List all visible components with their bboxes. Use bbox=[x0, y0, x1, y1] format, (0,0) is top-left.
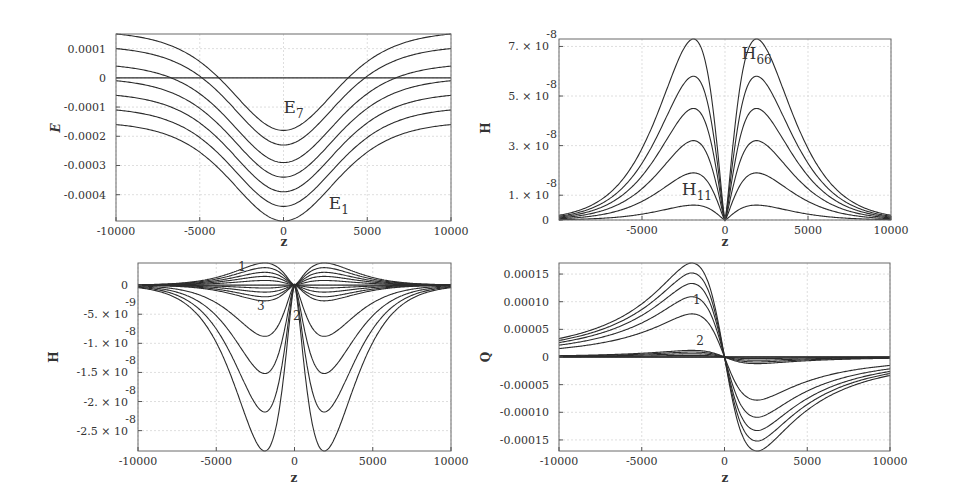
y-axis-label: E bbox=[49, 123, 63, 134]
x-axis-label: z bbox=[722, 471, 729, 485]
grid bbox=[116, 34, 451, 221]
curve-label: 2 bbox=[293, 309, 301, 323]
y-axis-label: H bbox=[479, 122, 493, 133]
y-tick-label: -2. × 10 bbox=[84, 396, 128, 409]
y-tick-label: -0.00005 bbox=[500, 379, 549, 392]
curve-label: E7 bbox=[284, 97, 304, 121]
x-ticks: -10000-50000500010000 bbox=[119, 447, 469, 468]
x-tick-label: -10000 bbox=[97, 225, 136, 238]
y-tick-label: -1. × 10 bbox=[84, 337, 128, 350]
x-tick-label: -10000 bbox=[119, 455, 158, 468]
curve-label: 2 bbox=[696, 334, 704, 348]
y-tick-label: -0.0002 bbox=[64, 130, 106, 143]
y-tick-exponent: -8 bbox=[125, 325, 136, 338]
x-tick-label: 0 bbox=[291, 455, 298, 468]
y-tick-exponent: -9 bbox=[125, 296, 136, 309]
x-tick-label: 5000 bbox=[793, 455, 821, 468]
y-tick-label: 0.00015 bbox=[504, 268, 550, 281]
x-tick-label: 10000 bbox=[434, 455, 469, 468]
y-ticks: 0-5. × 10-9-1. × 10-8-1.5 × 10-8-2. × 10… bbox=[77, 279, 142, 438]
x-tick-label: 5000 bbox=[359, 455, 387, 468]
panel-h-diagonal: -50000500010000 7. × 10-85. × 10-83. × 1… bbox=[479, 28, 909, 249]
annotations: H66H11 bbox=[682, 43, 772, 203]
y-tick-label: -0.00015 bbox=[500, 434, 549, 447]
y-tick-label: 5. × 10 bbox=[508, 90, 549, 103]
y-tick-exponent: -8 bbox=[125, 354, 136, 367]
x-ticks: -10000-50000500010000 bbox=[540, 447, 908, 468]
x-tick-label: -5000 bbox=[626, 455, 658, 468]
curve-label: 1 bbox=[238, 260, 246, 274]
figure: -10000-50000500010000 0.00010-0.0001-0.0… bbox=[0, 0, 954, 500]
y-tick-label: 0 bbox=[99, 72, 106, 85]
grid bbox=[559, 39, 891, 220]
curve-group1 bbox=[138, 263, 451, 285]
x-tick-label: 5000 bbox=[794, 224, 822, 237]
y-tick-label: 0 bbox=[542, 351, 549, 364]
y-tick-exponent: -8 bbox=[546, 177, 557, 190]
x-tick-label: 10000 bbox=[873, 455, 908, 468]
x-tick-label: -5000 bbox=[184, 225, 216, 238]
y-tick-exponent: -8 bbox=[546, 28, 557, 41]
y-tick-exponent: -8 bbox=[125, 413, 136, 426]
y-tick-label: 0.00005 bbox=[504, 323, 550, 336]
y-tick-label: 0.0001 bbox=[68, 43, 107, 56]
y-ticks: 0.000150.000100.000050-0.00005-0.00010-0… bbox=[500, 268, 563, 447]
y-tick-label: -5. × 10 bbox=[84, 308, 128, 321]
y-axis-label: Q bbox=[479, 352, 493, 362]
y-tick-label: -2.5 × 10 bbox=[77, 425, 128, 438]
panel-h-offdiagonal: -10000-50000500010000 0-5. × 10-9-1. × 1… bbox=[47, 260, 469, 485]
curve-label: H11 bbox=[682, 179, 712, 203]
x-axis-label: z bbox=[281, 235, 288, 249]
x-tick-label: -10000 bbox=[540, 455, 579, 468]
x-tick-label: 10000 bbox=[434, 225, 469, 238]
y-ticks: 0.00010-0.0001-0.0002-0.0003-0.0004 bbox=[64, 43, 120, 202]
curve-label: 3 bbox=[257, 299, 265, 313]
x-tick-label: 5000 bbox=[353, 225, 381, 238]
y-tick-label: -0.0004 bbox=[64, 189, 106, 202]
y-tick-exponent: -8 bbox=[546, 128, 557, 141]
y-tick-label: -0.0001 bbox=[64, 101, 106, 114]
x-tick-label: -5000 bbox=[200, 455, 232, 468]
panel-q: -10000-50000500010000 0.000150.000100.00… bbox=[479, 263, 908, 485]
y-tick-label: 7. × 10 bbox=[508, 40, 549, 53]
y-ticks: 7. × 10-85. × 10-83. × 10-81. × 10-80 bbox=[508, 28, 563, 227]
y-tick-label: 3. × 10 bbox=[508, 140, 549, 153]
panel-energy: -10000-50000500010000 0.00010-0.0001-0.0… bbox=[49, 34, 469, 249]
y-tick-exponent: -8 bbox=[125, 384, 136, 397]
x-tick-label: 0 bbox=[721, 455, 728, 468]
y-tick-label: -0.0003 bbox=[64, 159, 106, 172]
x-axis-label: z bbox=[722, 235, 729, 249]
x-axis-label: z bbox=[291, 471, 298, 485]
y-tick-label: 0 bbox=[121, 279, 128, 292]
y-tick-label: 1. × 10 bbox=[508, 189, 549, 202]
y-tick-exponent: -8 bbox=[546, 78, 557, 91]
curve-label: 1 bbox=[693, 293, 701, 307]
annotations: E7E1 bbox=[284, 97, 349, 217]
curve-label: E1 bbox=[329, 193, 349, 217]
y-axis-label: H bbox=[47, 351, 61, 362]
x-tick-label: 10000 bbox=[874, 224, 909, 237]
y-tick-label: -1.5 × 10 bbox=[77, 366, 128, 379]
y-tick-label: 0 bbox=[542, 214, 549, 227]
y-tick-label: -0.00010 bbox=[500, 406, 549, 419]
y-tick-label: 0.00010 bbox=[504, 296, 550, 309]
x-tick-label: -5000 bbox=[626, 224, 658, 237]
